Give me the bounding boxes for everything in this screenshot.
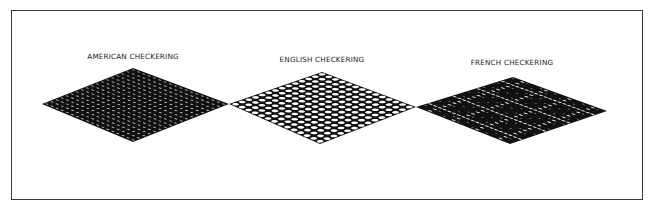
american-checkering-diamond	[42, 68, 229, 142]
english-checkering-diamond	[229, 72, 416, 144]
checkering-diagram	[0, 0, 656, 212]
french-checkering-diamond	[416, 77, 607, 144]
